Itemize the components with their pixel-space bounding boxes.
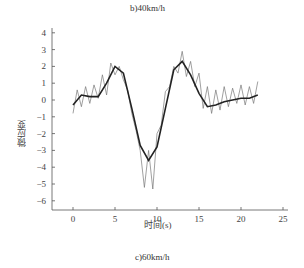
x-tick-label: 15 bbox=[195, 214, 205, 224]
y-tick-label: −3 bbox=[36, 145, 46, 155]
x-tick-label: 20 bbox=[237, 214, 247, 224]
x-tick-label: 25 bbox=[279, 214, 289, 224]
y-tick-label: 4 bbox=[42, 28, 47, 38]
fitted-series-line bbox=[73, 61, 258, 160]
y-tick-label: −6 bbox=[36, 196, 46, 206]
y-tick-label: 1 bbox=[42, 78, 47, 88]
measured-series-line bbox=[73, 51, 258, 189]
y-tick-label: −4 bbox=[36, 162, 46, 172]
y-tick-label: 2 bbox=[42, 61, 47, 71]
x-ticks: 0510152025 bbox=[71, 207, 288, 224]
figure-caption-bottom: c)60km/h bbox=[135, 252, 170, 262]
x-axis-label: 时间(s) bbox=[144, 218, 172, 231]
x-tick-label: 0 bbox=[71, 214, 76, 224]
y-tick-label: 3 bbox=[42, 45, 47, 55]
x-tick-label: 5 bbox=[113, 214, 118, 224]
y-axis-label: 微应变 bbox=[14, 120, 27, 147]
y-tick-label: −1 bbox=[36, 112, 46, 122]
y-tick-label: −5 bbox=[36, 179, 46, 189]
y-tick-label: −2 bbox=[36, 129, 46, 139]
axes bbox=[52, 28, 288, 210]
y-tick-label: 0 bbox=[42, 95, 47, 105]
